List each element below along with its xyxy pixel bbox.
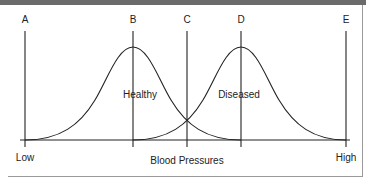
marker-label-d: D xyxy=(237,14,244,25)
diseased-label: Diseased xyxy=(218,89,260,100)
axis-title: Blood Pressures xyxy=(150,155,223,166)
healthy-label: Healthy xyxy=(123,89,157,100)
distribution-diagram xyxy=(0,0,366,180)
marker-label-a: A xyxy=(22,14,29,25)
marker-label-c: C xyxy=(183,14,190,25)
marker-label-b: B xyxy=(130,14,137,25)
marker-label-e: E xyxy=(343,14,350,25)
axis-low-label: Low xyxy=(16,152,34,163)
axis-high-label: High xyxy=(336,152,357,163)
